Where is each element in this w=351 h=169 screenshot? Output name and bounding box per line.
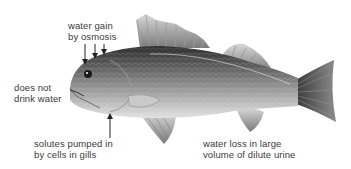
label-water-gain: water gain by osmosis — [68, 20, 117, 42]
dorsal-fin-spiny — [136, 14, 210, 48]
label-water-loss: water loss in large volume of dilute uri… — [203, 138, 296, 160]
anal-fin — [236, 108, 264, 133]
label-solutes: solutes pumped in by cells in gills — [34, 138, 113, 160]
label-does-not-drink: does not drink water — [14, 82, 62, 104]
eye — [84, 70, 92, 78]
tail-fin — [296, 60, 336, 122]
